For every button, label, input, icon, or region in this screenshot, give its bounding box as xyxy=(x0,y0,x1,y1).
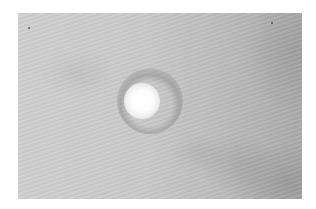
canvas xyxy=(0,0,316,209)
skin-photograph xyxy=(18,13,302,199)
dark-speck xyxy=(271,22,273,24)
white-lesion-spot xyxy=(124,83,160,119)
dark-speck xyxy=(28,27,30,29)
